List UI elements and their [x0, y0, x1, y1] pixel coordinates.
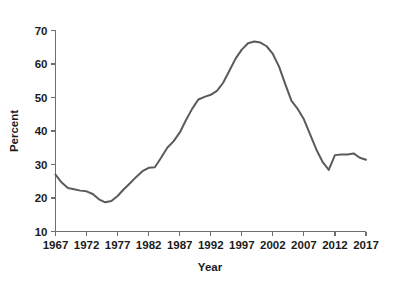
x-tick-label: 1992: [198, 239, 224, 251]
x-tick-label: 1972: [74, 239, 100, 251]
x-tick-label: 1967: [43, 239, 69, 251]
data-series-line: [56, 42, 367, 203]
x-tick-label: 1977: [105, 239, 131, 251]
x-tick-label: 1997: [229, 239, 255, 251]
y-tick-label: 60: [35, 58, 48, 70]
y-axis-ticks: [51, 31, 56, 232]
y-tick-label: 50: [35, 92, 48, 104]
x-tick-label: 2002: [260, 239, 286, 251]
y-tick-label: 10: [35, 226, 48, 238]
x-tick-label: 1982: [136, 239, 162, 251]
x-tick-label: 2012: [322, 239, 348, 251]
x-tick-label: 2017: [353, 239, 379, 251]
chart-container: 10203040506070 1967197219771982198719921…: [0, 0, 394, 288]
y-tick-label: 40: [35, 125, 48, 137]
y-axis-tick-labels: 10203040506070: [35, 25, 48, 238]
x-tick-label: 2007: [291, 239, 317, 251]
y-tick-label: 70: [35, 25, 48, 37]
y-tick-label: 30: [35, 159, 48, 171]
line-chart-plot: 10203040506070 1967197219771982198719921…: [0, 0, 394, 288]
y-tick-label: 20: [35, 192, 48, 204]
x-axis-ticks: [56, 232, 367, 237]
x-axis-title: Year: [198, 261, 223, 273]
y-axis-title: Percent: [8, 110, 20, 152]
x-tick-label: 1987: [167, 239, 193, 251]
x-axis-tick-labels: 1967197219771982198719921997200220072012…: [43, 239, 379, 251]
